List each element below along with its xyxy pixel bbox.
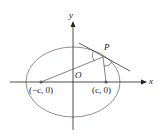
y-axis-arrow-icon bbox=[71, 21, 76, 27]
left-focus-label: (−c, 0) bbox=[29, 85, 53, 95]
ellipse-diagram: y x O P (−c, 0) (c, 0) bbox=[0, 0, 160, 138]
diagram-svg bbox=[0, 0, 160, 138]
origin-label: O bbox=[75, 70, 82, 80]
point-p-label: P bbox=[104, 42, 110, 52]
right-focus-label: (c, 0) bbox=[92, 85, 111, 95]
x-axis-arrow-icon bbox=[141, 80, 147, 85]
y-axis-label: y bbox=[69, 10, 73, 20]
left-focus-dot bbox=[40, 81, 43, 84]
x-axis-label: x bbox=[149, 76, 153, 86]
angle-arc-left bbox=[92, 52, 94, 61]
angle-arc-right bbox=[104, 62, 112, 66]
right-focus-dot bbox=[105, 81, 108, 84]
right-focal-radius bbox=[103, 57, 106, 82]
